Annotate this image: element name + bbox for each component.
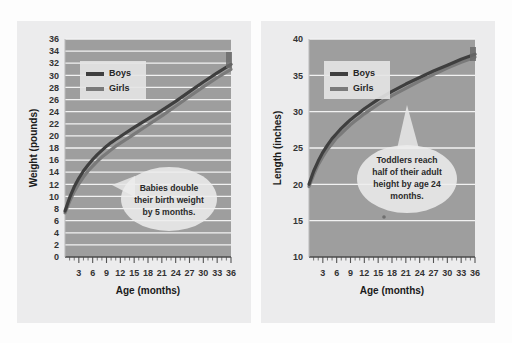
length-legend-box bbox=[324, 61, 390, 99]
length-y-axis-title: Length (inches) bbox=[272, 110, 283, 184]
y-tick-label: 2 bbox=[54, 240, 59, 250]
y-tick-label: 36 bbox=[49, 34, 59, 44]
y-tick-label: 26 bbox=[49, 94, 59, 104]
x-tick-label: 15 bbox=[373, 268, 383, 278]
y-tick-label: 30 bbox=[293, 106, 303, 116]
weight-legend-label-girls: Girls bbox=[109, 83, 130, 93]
length-legend-label-boys: Boys bbox=[353, 68, 375, 78]
y-tick-label: 32 bbox=[49, 58, 59, 68]
length-chart-svg: 10152025303540 369121518212427303336 Tod… bbox=[261, 21, 495, 323]
y-tick-label: 24 bbox=[49, 106, 59, 116]
weight-legend-box bbox=[80, 61, 146, 99]
length-legend-swatch-girls bbox=[330, 87, 348, 91]
y-tick-label: 22 bbox=[49, 118, 59, 128]
y-tick-label: 16 bbox=[49, 155, 59, 165]
x-tick-label: 27 bbox=[428, 268, 438, 278]
weight-endpoint-marker bbox=[226, 52, 232, 68]
x-tick-label: 12 bbox=[115, 268, 125, 278]
weight-legend-swatch-boys bbox=[86, 72, 104, 76]
length-callout-line-1: Toddlers reach bbox=[377, 155, 438, 165]
x-tick-label: 36 bbox=[470, 268, 480, 278]
x-tick-label: 12 bbox=[359, 268, 369, 278]
x-tick-label: 15 bbox=[129, 268, 139, 278]
x-tick-label: 3 bbox=[320, 268, 325, 278]
weight-y-axis-title: Weight (pounds) bbox=[28, 108, 39, 187]
x-tick-label: 30 bbox=[442, 268, 452, 278]
weight-callout-line-3: by 5 months. bbox=[142, 207, 195, 217]
x-tick-label: 6 bbox=[334, 268, 339, 278]
x-tick-label: 24 bbox=[415, 268, 425, 278]
x-tick-label: 9 bbox=[104, 268, 109, 278]
y-tick-label: 20 bbox=[49, 131, 59, 141]
y-tick-label: 10 bbox=[293, 252, 303, 262]
weight-legend-swatch-girls bbox=[86, 87, 104, 91]
length-callout-line-2: half of their adult bbox=[372, 167, 442, 177]
y-tick-label: 14 bbox=[49, 167, 59, 177]
length-legend-label-girls: Girls bbox=[353, 83, 374, 93]
x-tick-label: 33 bbox=[212, 268, 222, 278]
x-tick-label: 18 bbox=[143, 268, 153, 278]
y-tick-label: 20 bbox=[293, 179, 303, 189]
figure-root: 024681012141618202224262830323436 369121… bbox=[0, 0, 512, 343]
length-callout-line-4: months. bbox=[390, 191, 423, 201]
x-tick-label: 27 bbox=[184, 268, 194, 278]
length-endpoint-marker bbox=[470, 47, 476, 61]
y-tick-label: 34 bbox=[49, 46, 59, 56]
length-legend-swatch-boys bbox=[330, 72, 348, 76]
length-chart-panel: 10152025303540 369121518212427303336 Tod… bbox=[261, 21, 495, 323]
y-tick-label: 18 bbox=[49, 143, 59, 153]
y-tick-label: 6 bbox=[54, 215, 59, 225]
y-tick-label: 15 bbox=[293, 215, 303, 225]
x-tick-label: 21 bbox=[401, 268, 411, 278]
x-tick-label: 30 bbox=[198, 268, 208, 278]
x-tick-label: 18 bbox=[387, 268, 397, 278]
weight-x-axis-title: Age (months) bbox=[116, 285, 180, 296]
weight-callout-line-2: their birth weight bbox=[134, 195, 204, 205]
weight-legend[interactable]: Boys Girls bbox=[80, 61, 146, 99]
y-tick-label: 30 bbox=[49, 70, 59, 80]
length-legend[interactable]: Boys Girls bbox=[324, 61, 390, 99]
x-tick-label: 6 bbox=[90, 268, 95, 278]
y-tick-label: 35 bbox=[293, 70, 303, 80]
x-tick-label: 9 bbox=[348, 268, 353, 278]
y-tick-label: 10 bbox=[49, 191, 59, 201]
y-tick-label: 40 bbox=[293, 34, 303, 44]
y-tick-label: 8 bbox=[54, 203, 59, 213]
x-tick-label: 24 bbox=[171, 268, 181, 278]
length-stray-mark bbox=[382, 215, 386, 219]
x-tick-label: 21 bbox=[157, 268, 167, 278]
x-tick-label: 3 bbox=[76, 268, 81, 278]
weight-chart-svg: 024681012141618202224262830323436 369121… bbox=[17, 21, 251, 323]
y-tick-label: 28 bbox=[49, 82, 59, 92]
x-tick-label: 36 bbox=[226, 268, 236, 278]
weight-legend-label-boys: Boys bbox=[109, 68, 131, 78]
y-tick-label: 0 bbox=[54, 252, 59, 262]
weight-callout-line-1: Babies double bbox=[140, 183, 199, 193]
x-tick-label: 33 bbox=[456, 268, 466, 278]
y-tick-label: 12 bbox=[49, 179, 59, 189]
y-tick-label: 4 bbox=[54, 227, 59, 237]
y-tick-label: 25 bbox=[293, 143, 303, 153]
length-callout-line-3: height by age 24 bbox=[373, 179, 441, 189]
weight-chart-panel: 024681012141618202224262830323436 369121… bbox=[17, 21, 251, 323]
length-x-axis-title: Age (months) bbox=[360, 285, 424, 296]
